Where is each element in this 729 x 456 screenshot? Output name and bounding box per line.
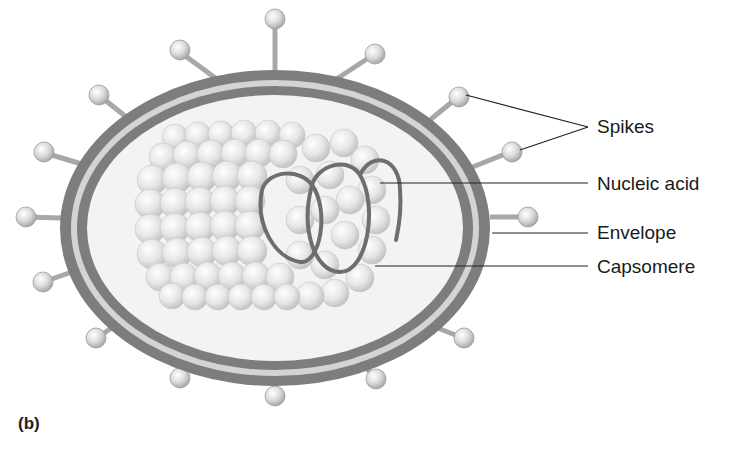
spike-head [16, 207, 36, 227]
label-envelope: Envelope [597, 222, 676, 244]
spike-head [89, 85, 109, 105]
spike-head [449, 87, 469, 107]
label-nucleic-acid: Nucleic acid [597, 173, 699, 195]
spike-head [502, 142, 522, 162]
spike-head [265, 386, 285, 406]
spike-head [33, 272, 53, 292]
spike-head [518, 207, 538, 227]
spike-head [170, 40, 190, 60]
label-spikes: Spikes [597, 116, 654, 138]
spike-head [34, 142, 54, 162]
spike-head [86, 328, 106, 348]
spike-head [365, 44, 385, 64]
panel-label: (b) [18, 414, 40, 434]
label-capsomere: Capsomere [597, 256, 695, 278]
spike-head [366, 369, 386, 389]
spike-head [265, 9, 285, 29]
spike-head [454, 328, 474, 348]
envelope [60, 70, 490, 386]
